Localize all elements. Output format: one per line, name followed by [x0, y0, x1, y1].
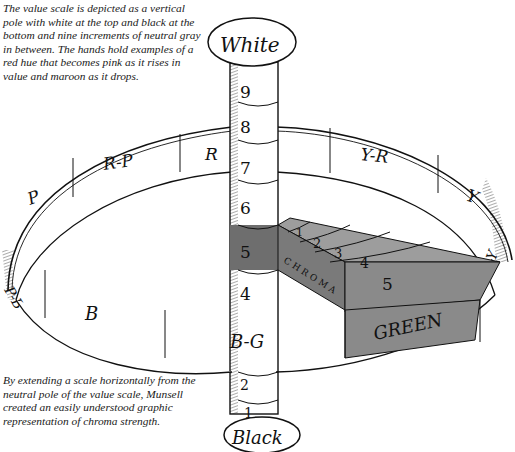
value-2: 2	[240, 377, 249, 393]
white-label: White	[220, 33, 280, 57]
chroma-arm	[278, 218, 500, 312]
value-4: 4	[240, 284, 251, 304]
value-pole	[230, 62, 278, 414]
chroma-5: 5	[382, 274, 393, 294]
black-cap: Black	[224, 417, 300, 452]
value-9: 9	[240, 82, 251, 102]
value-7: 7	[240, 158, 251, 178]
chroma-3: 3	[334, 246, 342, 261]
black-label: Black	[231, 427, 283, 448]
value-6: 6	[240, 198, 251, 218]
hue-label-r: R	[204, 144, 218, 164]
hue-label-r-p: R-P	[101, 150, 135, 174]
munsell-diagram: P R-P R Y-R Y G-Y P-B 9 8 7 6 5 4 2 1	[0, 0, 515, 452]
hue-label-b: B	[84, 303, 98, 324]
value-5: 5	[240, 242, 251, 262]
chroma-1: 1	[296, 226, 303, 239]
value-8: 8	[240, 117, 251, 137]
chroma-4: 4	[360, 255, 369, 271]
hue-label-y-r: Y-R	[360, 144, 390, 167]
hue-label-p: P	[24, 186, 43, 209]
chroma-2: 2	[313, 236, 321, 251]
white-cap: White	[208, 18, 296, 66]
hue-label-b-g: B-G	[229, 331, 264, 352]
